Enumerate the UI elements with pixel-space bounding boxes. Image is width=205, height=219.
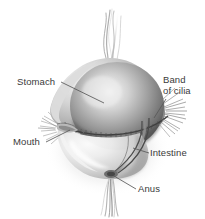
label-band-of-cilia-line1: Band: [163, 74, 186, 85]
label-stomach: Stomach: [17, 76, 55, 87]
label-anus: Anus: [138, 183, 160, 194]
anus-inner: [107, 172, 115, 176]
label-band-of-cilia-line2: of cilia: [163, 85, 191, 96]
ctenophore-anatomy-figure: Stomach Band of cilia Mouth Intestine An…: [0, 0, 205, 219]
anatomy-illustration: [0, 0, 205, 219]
label-intestine: Intestine: [150, 147, 187, 158]
label-mouth: Mouth: [13, 136, 40, 147]
label-band-of-cilia: Band of cilia: [163, 74, 205, 96]
stomach-highlight: [82, 76, 122, 108]
